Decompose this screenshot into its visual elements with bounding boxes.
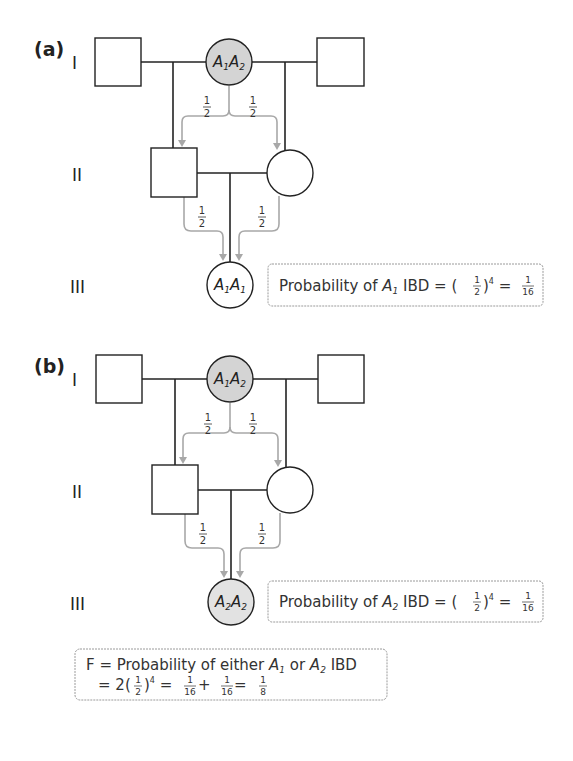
arrowhead-icon [235,254,243,261]
fraction-half: 1 2 [258,522,266,546]
generation-label-III: III [70,594,85,614]
svg-text:1: 1 [250,412,256,423]
svg-text:2: 2 [199,218,205,229]
svg-text:2: 2 [204,108,210,119]
generation-label-I: I [72,370,77,390]
exponent-expression: )4 = [483,593,511,611]
svg-text:1: 1 [199,205,205,216]
arrowhead-icon [179,457,187,464]
probability-text-a: Probability of A1 IBD = ( [279,277,457,296]
female-individual-II-2 [267,150,313,196]
male-individual-I-1 [96,355,142,403]
svg-text:2: 2 [250,108,256,119]
svg-text:2: 2 [259,218,265,229]
panel-b-label: (b) [34,355,65,377]
svg-text:16: 16 [221,687,233,697]
male-individual-II-1 [152,465,198,514]
fraction-half: 1 2 [473,591,481,613]
svg-text:1: 1 [260,675,266,685]
equals-sign: = [234,676,247,694]
svg-text:2: 2 [474,603,480,613]
arrowhead-icon [219,254,227,261]
svg-text:1: 1 [250,95,256,106]
panel-a: (a) I II III 1 2 1 2 [34,38,543,308]
fraction-half: 1 2 [203,95,211,119]
svg-text:1: 1 [525,275,531,285]
arrowhead-icon [273,143,281,150]
male-individual-I-3 [318,355,364,403]
inbreeding-pedigree-diagram: (a) I II III 1 2 1 2 [0,0,573,761]
panel-a-label: (a) [34,38,64,60]
arrowhead-icon [236,571,244,578]
fraction-half: 1 2 [473,275,481,297]
svg-text:16: 16 [522,287,534,297]
male-individual-I-1 [95,38,141,86]
arrowhead-icon [220,571,228,578]
male-individual-I-3 [317,38,364,86]
exponent-expression: )4 = [483,277,511,295]
svg-text:1: 1 [135,675,141,685]
svg-text:2: 2 [135,687,141,697]
arrowhead-icon [274,460,282,467]
female-individual-II-2 [267,467,313,513]
male-individual-II-1 [151,148,197,197]
svg-text:1: 1 [205,412,211,423]
svg-text:1: 1 [224,675,230,685]
svg-text:2: 2 [259,535,265,546]
svg-text:8: 8 [260,687,266,697]
svg-text:1: 1 [525,591,531,601]
svg-text:1: 1 [187,675,193,685]
fraction-half: 1 2 [199,522,207,546]
svg-text:1: 1 [259,522,265,533]
summary-line-2: = 2( [98,676,131,694]
svg-text:1: 1 [204,95,210,106]
svg-text:1: 1 [200,522,206,533]
fraction-half: 1 2 [258,205,266,229]
fraction-half: 1 2 [249,95,257,119]
summary-line-1: F = Probability of either A1 or A2 IBD [86,656,357,675]
generation-label-II: II [72,482,82,502]
exponent-expression: )4 = [144,676,172,694]
plus-sign: + [198,676,211,694]
fraction-half: 1 2 [134,675,142,697]
svg-text:2: 2 [474,287,480,297]
fraction-half: 1 2 [249,412,257,436]
generation-label-III: III [70,277,85,297]
svg-text:1: 1 [259,205,265,216]
fraction-one-eighth: 1 8 [259,675,267,697]
fraction-half: 1 2 [198,205,206,229]
generation-label-II: II [72,165,82,185]
svg-text:2: 2 [250,425,256,436]
arrowhead-icon [178,140,186,147]
svg-text:2: 2 [200,535,206,546]
fraction-half: 1 2 [204,412,212,436]
inbreeding-coefficient-box: F = Probability of either A1 or A2 IBD =… [75,649,387,700]
svg-text:2: 2 [205,425,211,436]
svg-text:1: 1 [474,591,480,601]
panel-b: (b) I II III 1 2 1 2 1 2 [34,355,543,625]
generation-label-I: I [72,53,77,73]
probability-text-b: Probability of A2 IBD = ( [279,593,457,612]
svg-text:1: 1 [474,275,480,285]
svg-text:16: 16 [184,687,196,697]
svg-text:16: 16 [522,603,534,613]
